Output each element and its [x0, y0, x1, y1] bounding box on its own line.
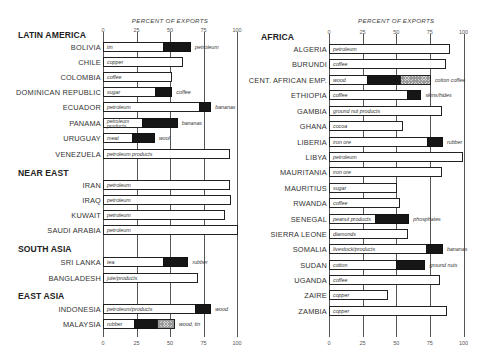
bar-segment-white: petroleum products: [103, 149, 230, 159]
country-label: BANGLADESH: [48, 274, 101, 283]
bottom-tick-label: 0: [101, 340, 104, 346]
bar-segment-white: petroleum: [103, 180, 230, 190]
bar-segment-white: sugar: [103, 87, 156, 97]
country-label: CENT. AFRICAN EMP.: [249, 76, 327, 85]
bar-segment-white: coffee: [329, 198, 400, 208]
bottom-tick-label: 75: [427, 340, 433, 346]
country-label: ETHIOPIA: [291, 91, 327, 100]
segment-label: petroleum/products: [107, 306, 152, 312]
segment-label: iron ore: [333, 169, 351, 175]
outer-segment-label: petroleum: [195, 44, 219, 50]
axis-title: PERCENT OF EXPORTS: [132, 17, 208, 24]
bar-segment-white: petroleum/products: [103, 304, 196, 314]
segment-label: jute/products: [107, 275, 137, 281]
outer-segment-label: rubber: [447, 139, 462, 145]
bar-segment-white: iron ore: [329, 137, 428, 147]
country-label: BOLIVIA: [71, 43, 101, 52]
outer-segment-label: bananas: [182, 120, 202, 126]
outer-segment-label: skins/hides: [425, 92, 451, 98]
country-label: DOMINICAN REPUBLIC: [16, 88, 101, 97]
region-header: NEAR EAST: [18, 168, 69, 178]
bar-segment-black: [155, 87, 172, 97]
top-tick-label: 25: [360, 29, 366, 35]
bar-segment-white: tea: [103, 257, 164, 267]
segment-label: petroleumproducts: [107, 119, 129, 129]
bar-segment-black: [426, 244, 443, 254]
country-label: COLOMBIA: [60, 73, 101, 82]
segment-label: petroleum: [333, 46, 357, 52]
country-label: SUDAN: [300, 261, 327, 270]
bar-segment-black: [367, 75, 402, 85]
bottom-tick-label: 75: [200, 340, 206, 346]
country-label: ZAIRE: [304, 291, 327, 300]
top-tick-label: 75: [200, 27, 206, 33]
segment-label: cotton: [333, 262, 347, 268]
segment-label: wood: [333, 77, 346, 83]
segment-label: peanut products: [333, 216, 371, 222]
segment-label: sugar: [107, 89, 120, 95]
country-label: GAMBIA: [297, 107, 327, 116]
segment-label: rubber: [107, 321, 122, 327]
bottom-tick-label: 50: [393, 340, 399, 346]
segment-label: tea: [107, 259, 114, 265]
segment-label: petroleum: [107, 197, 131, 203]
bar-segment-black: [407, 90, 421, 100]
bar-segment-white: diamonds: [329, 229, 408, 239]
country-label: URUGUAY: [63, 134, 101, 143]
segment-label: petroleum: [107, 212, 131, 218]
bar-segment-white: cotton: [329, 260, 397, 270]
segment-label: copper: [333, 292, 349, 298]
bar-segment-white: petroleumproducts: [103, 118, 143, 128]
bar-segment-white: copper: [329, 306, 447, 316]
country-label: SAUDI ARABIA: [47, 226, 101, 235]
bar-segment-white: coffee: [329, 90, 408, 100]
region-header: SOUTH ASIA: [18, 244, 72, 254]
axis-title: PERCENT OF EXPORTS: [358, 17, 434, 24]
outer-segment-label: bananas: [447, 246, 467, 252]
outer-segment-label: wool: [159, 135, 170, 141]
segment-label: coffee: [107, 74, 121, 80]
country-label: SRI LANKA: [61, 258, 101, 267]
top-tick-label: 0: [327, 29, 330, 35]
outer-segment-label: bananas: [215, 104, 235, 110]
segment-label: petroleum: [107, 227, 131, 233]
country-label: INDONESIA: [59, 305, 101, 314]
segment-label: coffee: [333, 277, 347, 283]
segment-label: petroleum: [107, 182, 131, 188]
country-label: IRAQ: [82, 196, 101, 205]
country-label: UGANDA: [294, 276, 327, 285]
bottom-tick-label: 25: [360, 340, 366, 346]
bar-segment-white: sugar: [329, 183, 397, 193]
bar-segment-black: [134, 319, 158, 329]
segment-label: livestock/products: [333, 246, 375, 252]
country-label: ECUADOR: [63, 103, 101, 112]
country-label: MAURITIUS: [285, 184, 327, 193]
region-header: EAST ASIA: [18, 291, 64, 301]
country-label: BURUNDI: [292, 60, 327, 69]
top-tick-label: 100: [459, 29, 468, 35]
country-label: SENEGAL: [291, 215, 327, 224]
bar-segment-black: [195, 304, 211, 314]
country-label: SOMALIA: [293, 245, 327, 254]
country-label: LIBYA: [306, 153, 327, 162]
bar-segment-black: [132, 133, 154, 143]
bar-segment-white: rubber: [103, 319, 135, 329]
segment-label: cocoa: [333, 123, 347, 129]
bar-segment-white: peanut products: [329, 214, 376, 224]
segment-label: coffee: [333, 61, 347, 67]
segment-label: meat: [107, 135, 119, 141]
top-tick-label: 25: [133, 27, 139, 33]
segment-label: ground nut products: [333, 108, 380, 114]
bar-segment-white: jute/products: [103, 273, 198, 283]
top-tick-label: 50: [393, 29, 399, 35]
country-label: CHILE: [78, 58, 101, 67]
bar-segment-white: coffee: [103, 72, 172, 82]
bar-segment-white: petroleum: [329, 152, 463, 162]
bar-segment-black: [163, 257, 188, 267]
segment-label: copper: [333, 308, 349, 314]
top-tick-label: 0: [101, 27, 104, 33]
bar-segment-black: [163, 42, 191, 52]
bar-segment-black: [375, 214, 410, 224]
segment-label: diamonds: [333, 231, 356, 237]
bar-segment-white: ground nut products: [329, 106, 442, 116]
